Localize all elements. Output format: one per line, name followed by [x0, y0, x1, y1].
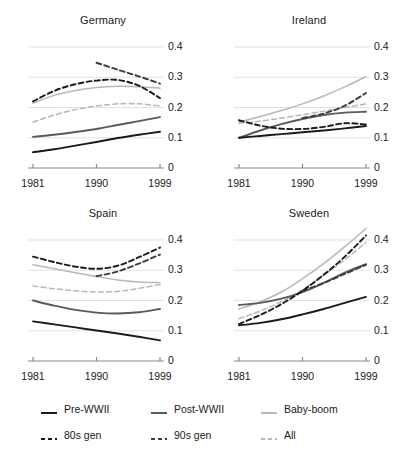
- series-line-all: [33, 284, 160, 292]
- y-axis-tick-label: 0.3: [168, 70, 183, 82]
- legend-line-swatch-icon: [261, 430, 277, 440]
- y-axis-tick-label: 0: [374, 161, 380, 173]
- small-multiples-figure: Germany 0.40.30.20.10198119901999 Irelan…: [0, 0, 412, 457]
- plot-area: [206, 193, 412, 389]
- legend-label: 90s gen: [174, 429, 211, 441]
- x-axis-tick-label: 1999: [140, 370, 180, 382]
- legend-label: Baby-boom: [284, 403, 338, 415]
- plot-area: [0, 193, 206, 389]
- legend-label: Pre-WWII: [64, 403, 110, 415]
- legend-item-gen-80s[interactable]: 80s gen: [41, 424, 151, 446]
- legend-label: 80s gen: [64, 429, 101, 441]
- legend-row-2: 80s gen90s genAll: [0, 424, 412, 446]
- legend-item-all[interactable]: All: [261, 424, 371, 446]
- series-line-90s-gen: [303, 265, 367, 291]
- series-line-baby-boom: [33, 265, 160, 283]
- legend-item-gen-90s[interactable]: 90s gen: [151, 424, 261, 446]
- series-line-baby-boom: [33, 86, 160, 103]
- x-axis-tick-label: 1999: [346, 177, 386, 189]
- series-line-80s-gen: [33, 80, 160, 102]
- series-line-80s-gen: [33, 248, 160, 269]
- x-axis-tick-label: 1999: [140, 177, 180, 189]
- x-axis-tick-label: 1990: [77, 370, 117, 382]
- y-axis-tick-label: 0.3: [168, 263, 183, 275]
- legend: Pre-WWIIPost-WWIIBaby-boom 80s gen90s ge…: [0, 392, 412, 457]
- legend-item-post-wwii[interactable]: Post-WWII: [151, 398, 261, 420]
- y-axis-tick-label: 0.3: [374, 263, 389, 275]
- x-axis-tick-label: 1999: [346, 370, 386, 382]
- y-axis-tick-label: 0.2: [374, 101, 389, 113]
- y-axis-tick-label: 0.4: [168, 40, 183, 52]
- panel-sweden: Sweden 0.40.30.20.10198119901999: [206, 193, 412, 389]
- series-line-all: [239, 104, 366, 123]
- plot-area: [206, 0, 412, 196]
- x-axis-tick-label: 1990: [77, 177, 117, 189]
- x-axis-tick-label: 1990: [283, 177, 323, 189]
- y-axis-tick-label: 0.1: [374, 324, 389, 336]
- y-axis-tick-label: 0.4: [168, 233, 183, 245]
- series-line-post-wwii: [33, 301, 160, 314]
- series-line-baby-boom: [239, 77, 366, 122]
- legend-item-pre-wwii[interactable]: Pre-WWII: [41, 398, 151, 420]
- legend-line-swatch-icon: [151, 404, 167, 414]
- panel-ireland: Ireland 0.40.30.20.10198119901999: [206, 0, 412, 196]
- x-axis-tick-label: 1990: [283, 370, 323, 382]
- legend-line-swatch-icon: [261, 404, 277, 414]
- y-axis-tick-label: 0.2: [374, 294, 389, 306]
- x-axis-tick-label: 1981: [219, 177, 259, 189]
- series-line-90s-gen: [97, 255, 161, 277]
- series-line-pre-wwii: [239, 297, 366, 325]
- legend-line-swatch-icon: [41, 404, 57, 414]
- x-axis-tick-label: 1981: [13, 370, 53, 382]
- y-axis-tick-label: 0.1: [168, 131, 183, 143]
- y-axis-tick-label: 0.1: [374, 131, 389, 143]
- y-axis-tick-label: 0.3: [374, 70, 389, 82]
- y-axis-tick-label: 0: [168, 354, 174, 366]
- y-axis-tick-label: 0.1: [168, 324, 183, 336]
- y-axis-tick-label: 0: [168, 161, 174, 173]
- legend-row-1: Pre-WWIIPost-WWIIBaby-boom: [0, 398, 412, 420]
- legend-label: Post-WWII: [174, 403, 224, 415]
- series-line-all: [33, 104, 160, 122]
- legend-label: All: [284, 429, 296, 441]
- y-axis-tick-label: 0.4: [374, 233, 389, 245]
- series-line-all: [239, 242, 366, 318]
- panel-germany: Germany 0.40.30.20.10198119901999: [0, 0, 206, 196]
- x-axis-tick-label: 1981: [13, 177, 53, 189]
- plot-area: [0, 0, 206, 196]
- legend-item-baby-boom[interactable]: Baby-boom: [261, 398, 371, 420]
- y-axis-tick-label: 0.4: [374, 40, 389, 52]
- legend-line-swatch-icon: [41, 430, 57, 440]
- series-line-80s-gen: [239, 235, 366, 324]
- x-axis-tick-label: 1981: [219, 370, 259, 382]
- y-axis-tick-label: 0.2: [168, 294, 183, 306]
- y-axis-tick-label: 0.2: [168, 101, 183, 113]
- panel-spain: Spain 0.40.30.20.10198119901999: [0, 193, 206, 389]
- legend-line-swatch-icon: [151, 430, 167, 440]
- y-axis-tick-label: 0: [374, 354, 380, 366]
